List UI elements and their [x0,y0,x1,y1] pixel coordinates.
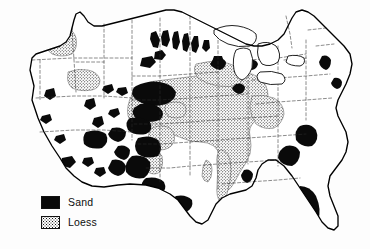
map-legend: Sand Loess [41,194,113,234]
loess-swatch-icon [41,216,60,229]
sand-texas-panhandle [126,156,151,179]
sand-four-corners [83,130,107,148]
sand-swatch-icon [41,196,60,209]
sand-georgia-sand [266,166,288,186]
legend-label-loess: Loess [68,216,97,229]
eolian-deposits-map: Sand Loess [0,0,370,249]
loess-palouse [45,28,77,57]
legend-label-sand: Sand [68,196,93,209]
sand-high-plains [135,136,161,157]
lake-ontario [286,55,305,66]
legend-item-loess: Loess [41,214,113,231]
legend-item-sand: Sand [41,194,113,211]
lake-erie [257,71,285,84]
loess-nebraska-south [165,102,186,118]
